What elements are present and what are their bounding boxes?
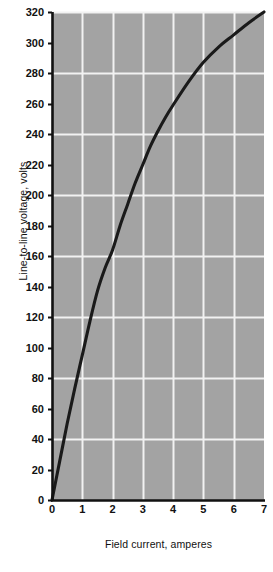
plot-area — [0, 0, 273, 572]
chart-container: Line-to-line voltage, volts Field curren… — [0, 0, 273, 572]
